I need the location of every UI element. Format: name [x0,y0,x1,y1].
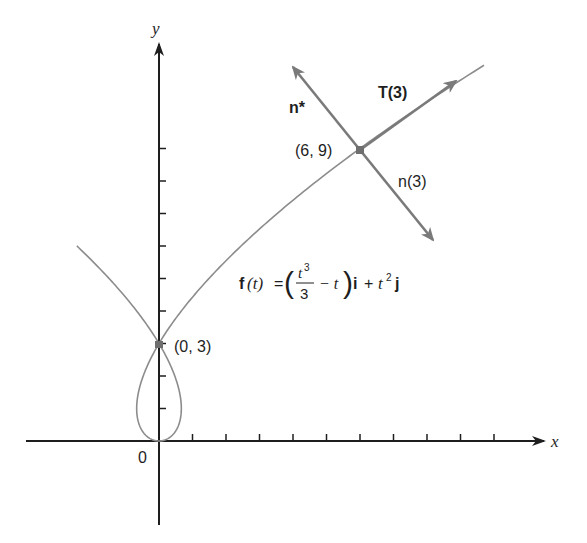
point-label-0-3: (0, 3) [174,338,211,355]
tangent-label: T(3) [378,84,407,101]
svg-text:3: 3 [300,285,308,302]
normal-star-label: n* [289,99,306,116]
svg-text:): ) [343,266,353,299]
svg-text:j: j [394,275,399,292]
x-axis-label: x [550,432,559,451]
origin-label: 0 [138,449,147,466]
point-label-6-9: (6, 9) [295,142,332,159]
normal-label: n(3) [398,173,426,190]
svg-text:+: + [364,275,373,292]
y-axis-ticks [159,149,166,409]
svg-text:(t): (t) [247,274,263,293]
parametric-curve [77,65,484,441]
svg-text:− t: − t [319,275,339,292]
svg-text:f: f [239,275,245,292]
svg-text:=: = [274,275,283,292]
svg-text:t: t [298,265,303,281]
svg-text:3: 3 [304,262,310,273]
point-6-9 [356,146,364,154]
tangent-vector-T3 [360,81,456,150]
svg-text:t: t [378,274,384,293]
svg-text:(: ( [284,266,294,299]
point-0-3 [155,341,163,348]
curve-equation: f (t) = ( t 3 3 − t ) i + t 2 j [239,262,399,302]
parametric-curve-diagram: y x 0 (0, 3) (6, 9) T(3) n(3) n* f (t) =… [0,0,587,543]
svg-text:i: i [353,275,357,292]
y-axis-label: y [150,19,160,38]
svg-text:2: 2 [386,272,392,283]
normal-vector-n3 [360,150,433,240]
x-axis-ticks [193,434,495,441]
